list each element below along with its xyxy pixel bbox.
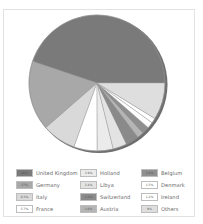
legend-label: United Kingdom bbox=[36, 170, 78, 176]
legend-item-united-kingdom: 46%United Kingdom bbox=[16, 168, 78, 178]
chart-legend: 46%United Kingdom17%Germany8.3%Italy5.7%… bbox=[16, 168, 196, 216]
legend-item-switzerland: 3.2%Switzerland bbox=[80, 192, 130, 202]
legend-swatch: 9% bbox=[141, 205, 158, 213]
legend-label: Austria bbox=[100, 206, 118, 212]
legend-swatch: 1.8% bbox=[141, 169, 158, 177]
legend-label: Others bbox=[161, 206, 178, 212]
legend-item-holland: 3.9%Holland bbox=[80, 168, 120, 178]
legend-item-libya: 3.4%Libya bbox=[80, 180, 114, 190]
legend-swatch: 3.9% bbox=[80, 169, 97, 177]
legend-item-france: 5.7%France bbox=[16, 204, 53, 214]
legend-label: Holland bbox=[100, 170, 120, 176]
legend-swatch: 1.5% bbox=[141, 181, 158, 189]
legend-swatch: 8.3% bbox=[16, 193, 33, 201]
legend-item-others: 9%Others bbox=[141, 204, 178, 214]
legend-item-belgium: 1.8%Belgium bbox=[141, 168, 182, 178]
legend-swatch: 17% bbox=[16, 181, 33, 189]
legend-swatch: 46% bbox=[16, 169, 33, 177]
legend-swatch: 3.4% bbox=[80, 181, 97, 189]
legend-label: Belgium bbox=[161, 170, 182, 176]
legend-label: Germany bbox=[36, 182, 60, 188]
legend-label: France bbox=[36, 206, 53, 212]
legend-label: Italy bbox=[36, 194, 47, 200]
pie-chart bbox=[0, 0, 203, 165]
legend-item-denmark: 1.5%Denmark bbox=[141, 180, 185, 190]
legend-label: Denmark bbox=[161, 182, 185, 188]
legend-swatch: 5.7% bbox=[16, 205, 33, 213]
legend-item-italy: 8.3%Italy bbox=[16, 192, 47, 202]
legend-label: Ireland bbox=[161, 194, 179, 200]
legend-swatch: 1.2% bbox=[141, 193, 158, 201]
legend-label: Libya bbox=[100, 182, 114, 188]
legend-item-ireland: 1.2%Ireland bbox=[141, 192, 179, 202]
legend-item-austria: 1.6%Austria bbox=[80, 204, 118, 214]
legend-label: Switzerland bbox=[100, 194, 130, 200]
legend-swatch: 3.2% bbox=[80, 193, 97, 201]
legend-swatch: 1.6% bbox=[80, 205, 97, 213]
legend-item-germany: 17%Germany bbox=[16, 180, 60, 190]
